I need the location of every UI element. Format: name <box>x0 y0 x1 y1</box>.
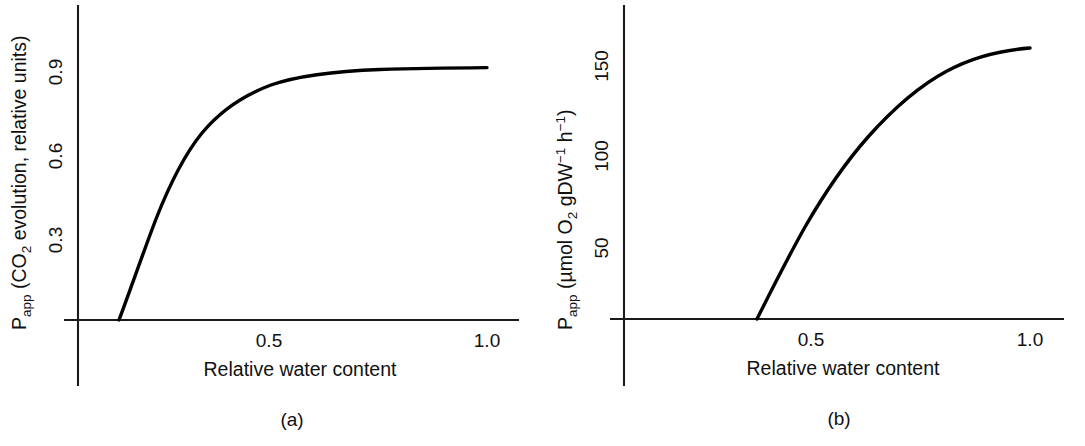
y-axis-title-b-app: app <box>565 294 580 317</box>
panel-b-plot: 150 100 50 Papp (µmol O2 gDW−1 h−1) 0.5 … <box>543 0 1085 446</box>
x-axis-title-a: Relative water content <box>204 358 398 380</box>
y-axis-title-a-app: app <box>19 294 34 317</box>
x-axis-title-b: Relative water content <box>747 357 941 379</box>
y-axis-title-b-minus1a: −1 <box>553 148 568 163</box>
y-axis-title-a: Papp (CO2 evolution, relative units) <box>8 35 34 330</box>
y-axis-title-b-h: h <box>554 131 576 147</box>
panel-a: 0.9 0.6 0.3 Papp (CO2 evolution, relativ… <box>0 0 543 446</box>
x-tick-label-b-1.0: 1.0 <box>1017 329 1043 350</box>
x-tick-label-a-0.5: 0.5 <box>256 330 282 351</box>
panel-a-plot: 0.9 0.6 0.3 Papp (CO2 evolution, relativ… <box>0 0 543 446</box>
y-axis-title-b-gdw: gDW <box>554 162 576 211</box>
y-tick-label-b-150: 150 <box>591 50 612 82</box>
y-axis-title-a-two: 2 <box>19 246 34 254</box>
panel-caption-b: (b) <box>827 408 850 429</box>
y-tick-label-a-0.9: 0.9 <box>45 59 66 85</box>
x-tick-label-b-0.5: 0.5 <box>798 329 824 350</box>
y-axis-title-b-open: (µmol O <box>554 219 576 294</box>
y-tick-label-b-100: 100 <box>591 140 612 172</box>
y-axis-title-a-rest: evolution, relative units) <box>8 35 30 245</box>
data-curve-a <box>119 68 487 320</box>
y-axis-title-b-two: 2 <box>565 212 580 220</box>
y-axis-title-b-p: P <box>554 317 576 330</box>
data-curve-b <box>757 48 1030 319</box>
y-tick-label-a-0.3: 0.3 <box>45 227 66 253</box>
y-tick-label-b-50: 50 <box>591 237 612 258</box>
panel-b: 150 100 50 Papp (µmol O2 gDW−1 h−1) 0.5 … <box>543 0 1085 446</box>
panel-caption-a: (a) <box>280 409 303 430</box>
y-tick-label-a-0.6: 0.6 <box>45 143 66 169</box>
y-axis-title-b-minus1b: −1 <box>553 116 568 131</box>
x-tick-label-a-1.0: 1.0 <box>474 330 500 351</box>
y-axis-title-a-open: (CO <box>8 253 30 294</box>
figure-container: 0.9 0.6 0.3 Papp (CO2 evolution, relativ… <box>0 0 1085 446</box>
y-axis-title-b: Papp (µmol O2 gDW−1 h−1) <box>553 109 580 330</box>
y-axis-title-a-p: P <box>8 317 30 330</box>
y-axis-title-b-close: ) <box>554 109 576 116</box>
